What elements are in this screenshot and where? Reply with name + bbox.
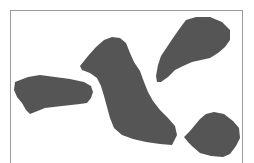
blob-left-shape [14,75,93,114]
blob-center-shape [80,37,177,145]
blob-upper-right-shape [156,17,230,82]
blob-lower-right-shape [184,112,240,157]
blob-figure [0,0,254,163]
